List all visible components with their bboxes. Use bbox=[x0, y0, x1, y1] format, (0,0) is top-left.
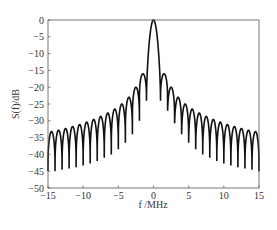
x-tick-label: −5 bbox=[113, 190, 124, 201]
x-tick-label: 15 bbox=[254, 190, 264, 201]
y-tick-label: 0 bbox=[39, 15, 44, 26]
y-tick-label: −35 bbox=[28, 132, 44, 143]
plot-area bbox=[48, 20, 259, 171]
y-tick-label: −5 bbox=[33, 31, 44, 42]
x-tick-label: −10 bbox=[75, 190, 91, 201]
y-tick-label: −45 bbox=[28, 166, 44, 177]
x-tick-label: 10 bbox=[219, 190, 229, 201]
y-tick-label: −10 bbox=[28, 48, 44, 59]
y-tick-label: −20 bbox=[28, 82, 44, 93]
y-tick-label: −40 bbox=[28, 149, 44, 160]
x-tick-label: 5 bbox=[186, 190, 191, 201]
y-tick-label: −25 bbox=[28, 99, 44, 110]
y-tick-label: −30 bbox=[28, 115, 44, 126]
axes-frame bbox=[48, 20, 259, 188]
spectrum-line bbox=[48, 20, 259, 171]
y-axis-ticks: 0−5−10−15−20−25−30−35−40−45−50 bbox=[28, 15, 50, 194]
y-axis-label: S(f)/dB bbox=[10, 89, 22, 119]
y-tick-label: −15 bbox=[28, 65, 44, 76]
x-tick-label: −15 bbox=[40, 190, 56, 201]
x-axis-label: f /MHz bbox=[138, 199, 168, 210]
spectrum-chart: 0−5−10−15−20−25−30−35−40−45−50 −15−10−50… bbox=[0, 0, 277, 230]
